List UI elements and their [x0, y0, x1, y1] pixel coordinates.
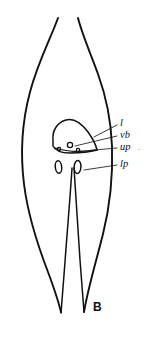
anatomical-line-drawing: l vb up lp . B [0, 0, 147, 343]
median-cleft-right-path [74, 168, 84, 312]
label-vb: vb [120, 129, 130, 140]
stray-dot-mark: . [138, 144, 140, 152]
label-lp: lp [120, 158, 128, 169]
lower-pore-right-ellipse [74, 160, 82, 174]
panel-label-b: B [93, 300, 102, 314]
label-l: l [120, 117, 123, 128]
ventral-body-circle [67, 142, 72, 147]
median-cleft-left-path [61, 168, 72, 313]
figure-panel-b: l vb up lp . B [0, 0, 147, 343]
leader-line-l [94, 125, 117, 137]
lower-pore-left-ellipse [55, 160, 63, 173]
body-outline-right-path [78, 18, 112, 312]
label-up: up [120, 141, 131, 152]
